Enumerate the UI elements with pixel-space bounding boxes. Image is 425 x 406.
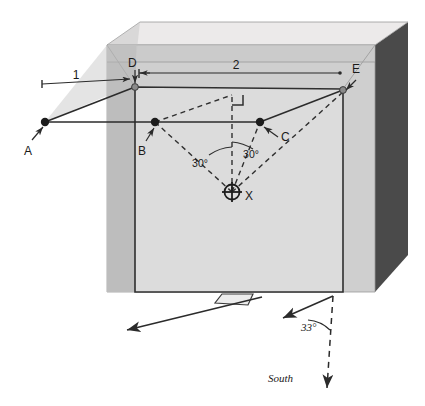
- point-e-label: E: [352, 62, 360, 76]
- point-x-label: X: [245, 189, 253, 203]
- point-e-dot[interactable]: [340, 87, 347, 94]
- figure-canvas: 1 2 30° 30°: [0, 0, 425, 406]
- dimension-1-label: 1: [73, 68, 80, 82]
- angle-right-label: 30°: [243, 148, 259, 160]
- point-b-label: B: [138, 144, 146, 158]
- south-arrow: [327, 296, 333, 388]
- block-top-face: [107, 22, 408, 45]
- diagram-svg: 1 2 30° 30°: [0, 0, 425, 406]
- dimension-2-tick-right: [338, 71, 342, 75]
- point-c-label: C: [281, 130, 290, 144]
- bearing-arrow-left: [127, 297, 262, 330]
- leader-a: [32, 127, 43, 140]
- point-d-dot[interactable]: [132, 84, 139, 91]
- angle-33-label: 33°: [300, 321, 317, 333]
- south-label: South: [268, 372, 294, 384]
- dimension-2-label: 2: [233, 58, 240, 72]
- point-b-dot[interactable]: [151, 118, 159, 126]
- angle-left-label: 30°: [192, 157, 208, 169]
- point-c-dot[interactable]: [256, 118, 264, 126]
- point-a-label: A: [24, 144, 32, 158]
- block-upper-band: [107, 45, 375, 62]
- point-d-label: D: [128, 56, 137, 70]
- block-right-face: [375, 22, 408, 292]
- angle-33-arrow: [283, 296, 333, 318]
- point-a-dot[interactable]: [41, 118, 49, 126]
